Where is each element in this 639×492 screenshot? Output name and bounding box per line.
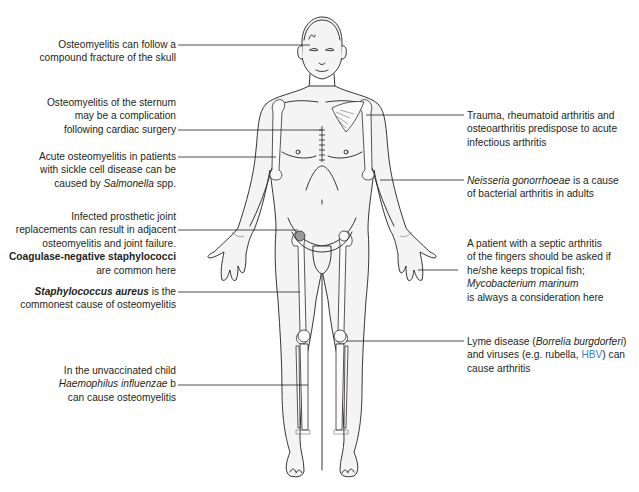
annotation-haemophilus: In the unvaccinated childHaemophilus inf…: [59, 364, 176, 404]
text-run: In the unvaccinated child: [64, 365, 176, 376]
italic-text: Salmonella: [104, 178, 154, 189]
text-run: compound fracture of the skull: [40, 52, 176, 63]
text-run: is a cause: [570, 175, 619, 186]
annotation-line: commonest cause of osteomyelitis: [20, 298, 176, 311]
text-run: osteomyelitis and joint failure.: [42, 238, 176, 249]
annotation-line: Infected prosthetic joint: [9, 210, 176, 223]
text-run: Coagulase-negative staphylococci: [9, 251, 176, 262]
text-run: Osteomyelitis can follow a: [58, 39, 176, 50]
text-run: Lyme disease (: [467, 336, 536, 347]
annotation-line: osteomyelitis and joint failure.: [9, 237, 176, 250]
text-run: infectious arthritis: [467, 137, 546, 148]
highlighted-text: HBV: [581, 349, 602, 360]
text-run: is always a consideration here: [467, 292, 603, 303]
right-knee: [334, 330, 346, 342]
annotation-sternum: Osteomyelitis of the sternummay be a com…: [47, 96, 176, 136]
annotation-fingers: A patient with a septic arthritisof the …: [467, 237, 611, 304]
text-run: he/she keeps tropical fish;: [467, 265, 585, 276]
annotation-line: and viruses (e.g. rubella, HBV) can: [467, 348, 626, 361]
text-run: of bacterial arthritis in adults: [467, 188, 594, 199]
annotation-shoulder: Trauma, rheumatoid arthritis andosteoart…: [467, 109, 617, 149]
text-run: spp.: [154, 178, 176, 189]
annotation-line: is always a consideration here: [467, 291, 611, 304]
text-run: can cause osteomyelitis: [68, 392, 176, 403]
text-run: A patient with a septic arthritis: [467, 238, 602, 249]
annotation-line: Mycobacterium marinum: [467, 277, 611, 290]
annotation-line: are common here: [9, 264, 176, 277]
text-run: are common here: [96, 265, 176, 276]
left-knee: [298, 330, 310, 342]
annotation-line: can cause osteomyelitis: [59, 391, 176, 404]
annotation-line: of the fingers should be asked if: [467, 250, 611, 263]
head: [302, 17, 342, 79]
text-run: b: [168, 378, 177, 389]
annotation-line: compound fracture of the skull: [40, 51, 176, 64]
annotation-line: Osteomyelitis can follow a: [40, 38, 176, 51]
text-run: ): [623, 336, 626, 347]
annotation-line: cause arthritis: [467, 362, 626, 375]
text-run: caused by: [54, 178, 103, 189]
text-run: is the: [149, 286, 176, 297]
annotation-line: A patient with a septic arthritis: [467, 237, 611, 250]
annotation-line: may be a complication: [47, 109, 176, 122]
annotation-line: Staphylococcus aureus is the: [20, 285, 176, 298]
annotation-staph-aureus: Staphylococcus aureus is thecommonest ca…: [20, 285, 176, 312]
annotation-line: replacements can result in adjacent: [9, 223, 176, 236]
body-outline: [208, 17, 436, 477]
annotation-skull: Osteomyelitis can follow acompound fract…: [40, 38, 176, 65]
annotation-sickle-cell: Acute osteomyelitis in patientswith sick…: [39, 150, 176, 190]
annotation-line: In the unvaccinated child: [59, 364, 176, 377]
annotation-lyme: Lyme disease (Borrelia burgdorferi)and v…: [467, 335, 626, 375]
text-run: commonest cause of osteomyelitis: [20, 299, 176, 310]
text-run: Trauma, rheumatoid arthritis and: [467, 110, 614, 121]
italic-text: Staphylococcus aureus: [34, 286, 148, 297]
annotation-line: he/she keeps tropical fish;: [467, 264, 611, 277]
annotation-line: with sickle cell disease can be: [39, 163, 176, 176]
annotation-line: following cardiac surgery: [47, 123, 176, 136]
text-run: Acute osteomyelitis in patients: [39, 151, 176, 162]
text-run: ) can: [602, 349, 625, 360]
annotation-line: caused by Salmonella spp.: [39, 177, 176, 190]
annotation-gonorrhoeae: Neisseria gonorrhoeae is a causeof bacte…: [467, 174, 619, 201]
annotation-line: Acute osteomyelitis in patients: [39, 150, 176, 163]
text-run: osteoarthritis predispose to acute: [467, 123, 617, 134]
text-run: following cardiac surgery: [64, 124, 176, 135]
annotation-line: of bacterial arthritis in adults: [467, 187, 619, 200]
italic-text: Neisseria gonorrhoeae: [467, 175, 570, 186]
annotation-line: Neisseria gonorrhoeae is a cause: [467, 174, 619, 187]
annotation-line: Lyme disease (Borrelia burgdorferi): [467, 335, 626, 348]
text-run: with sickle cell disease can be: [40, 164, 176, 175]
italic-text: Haemophilus influenzae: [59, 378, 168, 389]
text-run: replacements can result in adjacent: [16, 224, 176, 235]
annotation-line: Coagulase-negative staphylococci: [9, 250, 176, 263]
italic-text: Borrelia burgdorferi: [536, 336, 623, 347]
text-run: Osteomyelitis of the sternum: [47, 97, 176, 108]
text-run: Infected prosthetic joint: [71, 211, 176, 222]
annotation-line: osteoarthritis predispose to acute: [467, 122, 617, 135]
text-run: cause arthritis: [467, 363, 530, 374]
text-run: of the fingers should be asked if: [467, 251, 611, 262]
italic-text: Mycobacterium marinum: [467, 278, 579, 289]
text-run: and viruses (e.g. rubella,: [467, 349, 581, 360]
annotation-line: Osteomyelitis of the sternum: [47, 96, 176, 109]
annotation-line: Haemophilus influenzae b: [59, 377, 176, 390]
annotation-line: infectious arthritis: [467, 136, 617, 149]
annotation-prosthetic-joint: Infected prosthetic jointreplacements ca…: [9, 210, 176, 277]
text-run: may be a complication: [75, 110, 176, 121]
annotation-line: Trauma, rheumatoid arthritis and: [467, 109, 617, 122]
